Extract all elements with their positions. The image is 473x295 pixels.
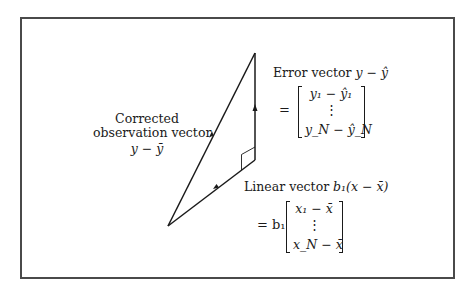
linear-row-last: x_N − x̄ xyxy=(293,237,335,252)
error-row-last: y_N − ŷ_N xyxy=(305,122,357,137)
left-bracket xyxy=(286,201,290,253)
linear-row-first: x₁ − x̄ xyxy=(293,201,335,216)
error-row-dots: ⋮ xyxy=(305,102,357,117)
error-row-first: y₁ − ŷ₁ xyxy=(305,86,357,101)
right-angle-marker xyxy=(242,147,256,170)
right-bracket xyxy=(361,86,365,138)
arrowhead-icon xyxy=(253,104,258,111)
error-vector-title: Error vector y − ŷ xyxy=(273,66,388,80)
linear-title-text: Linear vector xyxy=(244,179,333,194)
linear-vector-title: Linear vector b₁(x − x̄) xyxy=(244,180,388,194)
error-vector-matrix: = y₁ − ŷ₁ ⋮ y_N − ŷ_N xyxy=(275,84,375,138)
error-equals: = xyxy=(279,102,290,117)
right-bracket xyxy=(339,201,343,253)
error-title-text: Error vector xyxy=(273,65,356,80)
corrected-vector-label: Corrected observation vector y − ȳ xyxy=(93,112,201,156)
corrected-label-line2: observation vector xyxy=(93,126,201,140)
linear-equals: = b₁ xyxy=(257,217,286,232)
linear-row-dots: ⋮ xyxy=(293,217,335,232)
linear-vector-matrix: = b₁ x₁ − x̄ ⋮ x_N − x̄ xyxy=(255,199,355,253)
left-bracket xyxy=(298,86,302,138)
corrected-label-line1: Corrected xyxy=(93,112,201,126)
error-title-expr: y − ŷ xyxy=(356,65,389,80)
corrected-label-expr: y − ȳ xyxy=(93,142,201,156)
linear-title-expr: b₁(x − x̄) xyxy=(333,179,388,194)
vector-triangle xyxy=(0,0,473,295)
